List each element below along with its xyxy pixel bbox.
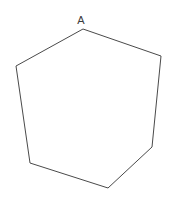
- vertex-label-a: A: [77, 14, 85, 26]
- hexagon-figure: A: [0, 0, 170, 203]
- figure-canvas: A: [0, 0, 170, 203]
- hexagon-shape: [16, 29, 161, 188]
